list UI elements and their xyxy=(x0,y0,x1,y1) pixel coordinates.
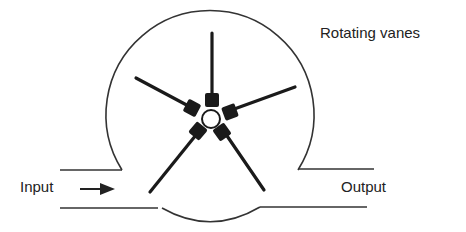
vane-lower-right xyxy=(223,130,264,190)
rotating-vanes-label: Rotating vanes xyxy=(320,24,420,41)
flow-arrow-icon xyxy=(80,183,115,195)
vane-upper-right xyxy=(226,87,295,112)
output-label: Output xyxy=(341,178,386,195)
input-label: Input xyxy=(20,178,53,195)
housing-lower-arc xyxy=(162,207,260,222)
rotor-hub xyxy=(202,110,220,128)
vane-lower-left xyxy=(150,130,200,192)
